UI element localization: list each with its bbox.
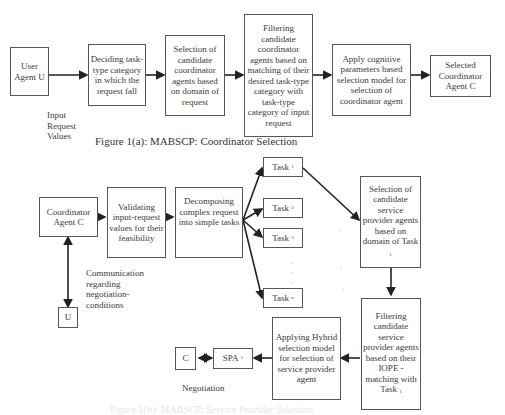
u-node: U <box>58 307 78 328</box>
user-agent-node: User Agent U <box>10 47 49 96</box>
c-node: C <box>175 347 196 370</box>
selection-coordinator-node: Selection of candidate coordinator agent… <box>165 35 225 116</box>
selected-coordinator-node: Selected Coordinator Agent C <box>430 55 491 97</box>
decomposing-label: Decomposing complex request into simple … <box>177 196 241 228</box>
figure-b-caption: Figure 1(b): MABSCP: Service Provider Se… <box>110 404 313 415</box>
validating-label: Validating input-request values for thei… <box>109 202 164 244</box>
user-agent-label: User Agent U <box>12 61 47 82</box>
apply-cognitive-node: Apply cognitive parameters based selecti… <box>332 44 411 116</box>
validating-node: Validating input-request values for thei… <box>107 187 166 258</box>
input-request-values-label: Input Request Values <box>47 110 81 142</box>
coordinator-agent-label: Coordinator Agent C <box>41 207 96 228</box>
decomposing-node: Decomposing complex request into simple … <box>175 187 243 258</box>
filtering-service-provider-node: Filtering candidate service provider age… <box>361 298 421 410</box>
deciding-node: Deciding task-type category in which the… <box>88 44 146 106</box>
negotiation-label: Negotiation <box>182 383 225 394</box>
communication-label: Communication regarding negotiation-cond… <box>86 268 166 310</box>
spa-node: SPA 1 <box>213 348 253 369</box>
selection-service-provider-label: Selection of candidate service provider … <box>363 184 419 247</box>
task-n-node: Task n <box>263 288 303 308</box>
filtering-coordinator-label: Filtering candidate coordinator agents b… <box>246 23 311 128</box>
apply-cognitive-label: Apply cognitive parameters based selecti… <box>334 54 409 107</box>
figure-a-caption: Figure 1(a): MABSCP: Coordinator Selecti… <box>95 135 297 147</box>
coordinator-agent-node: Coordinator Agent C <box>39 197 98 237</box>
selection-service-provider-node: Selection of candidate service provider … <box>360 176 421 268</box>
task-1-node: Task 1 <box>263 157 303 177</box>
deciding-label: Deciding task-type category in which the… <box>90 54 144 96</box>
hybrid-selection-node: Applying Hybrid selection model for sele… <box>272 317 341 400</box>
filtering-coordinator-node: Filtering candidate coordinator agents b… <box>244 14 313 137</box>
task-2-node: Task 2 <box>263 198 303 218</box>
selection-coordinator-label: Selection of candidate coordinator agent… <box>167 44 223 107</box>
hybrid-selection-label: Applying Hybrid selection model for sele… <box>274 332 339 385</box>
selected-coordinator-label: Selected Coordinator Agent C <box>432 60 489 92</box>
task-3-node: Task 3 <box>263 228 303 248</box>
filtering-service-provider-label: Filtering candidate service provider age… <box>363 311 419 395</box>
